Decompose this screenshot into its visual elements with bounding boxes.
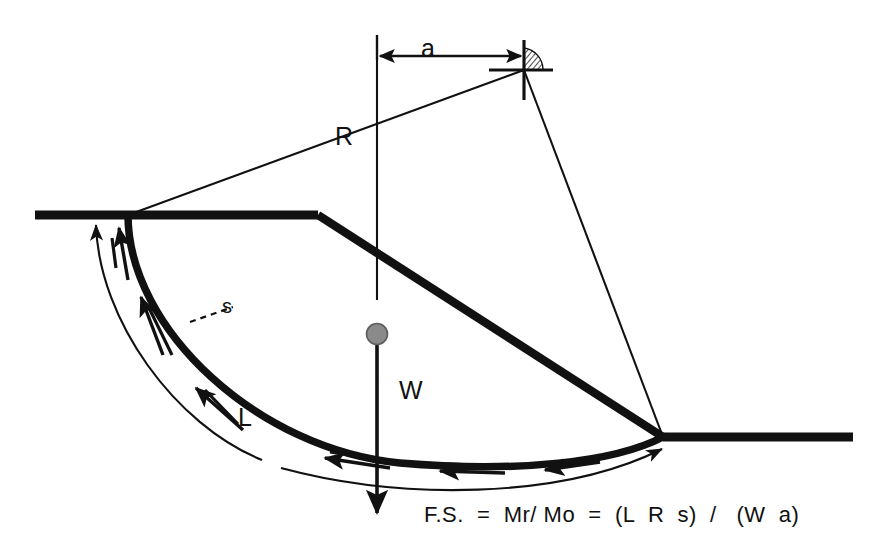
rotation-center	[489, 40, 553, 100]
radius-line-to-crest	[128, 70, 524, 215]
label-weight: W	[399, 378, 423, 403]
radius-line-to-toe	[524, 70, 663, 437]
label-arc-length: L	[238, 405, 252, 430]
label-radius: R	[335, 124, 353, 149]
moment-arm-dimension	[377, 35, 524, 100]
arc-length-indicator	[96, 225, 662, 490]
diagram-canvas: a R s W L F.S. = Mr/ Mo = (L R s) / (W a…	[0, 0, 875, 548]
shear-stress-ticks	[112, 238, 505, 466]
centroid-marker	[367, 324, 388, 345]
slope-stability-figure	[0, 0, 875, 548]
angle-hatch-marker	[524, 48, 543, 70]
label-moment-arm: a	[421, 36, 435, 61]
label-shear-strength: s	[222, 296, 232, 316]
factor-of-safety-formula: F.S. = Mr/ Mo = (L R s) / (W a)	[424, 504, 799, 526]
